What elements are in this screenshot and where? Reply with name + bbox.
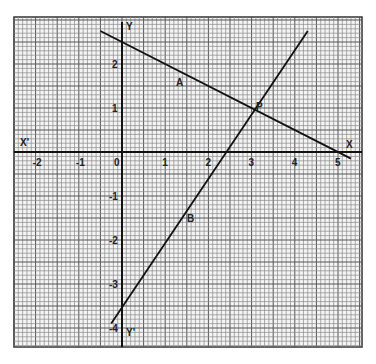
x-tick-label: 2	[205, 157, 211, 168]
axis-label-x-pos: X	[346, 139, 353, 150]
y-tick-label: -3	[109, 279, 118, 290]
x-tick-label: 5	[335, 157, 341, 168]
x-tick-label: 4	[292, 157, 298, 168]
y-tick-label: -1	[109, 191, 118, 202]
graph-paper-chart: X' X Y Y' A B P -2-101234521-1-2-3-4	[0, 0, 376, 364]
x-tick-label: 3	[249, 157, 255, 168]
y-tick-label: 2	[112, 59, 118, 70]
line-label-a: A	[176, 77, 183, 88]
axis-label-x-neg: X'	[20, 137, 29, 148]
axis-label-y-pos: Y	[126, 21, 133, 32]
grid	[14, 17, 362, 347]
x-tick-label: -2	[33, 157, 42, 168]
x-tick-label: -1	[76, 157, 85, 168]
y-tick-label: 1	[112, 103, 118, 114]
y-tick-label: -2	[109, 235, 118, 246]
line-label-b: B	[187, 213, 194, 224]
y-tick-label: -4	[109, 323, 118, 334]
x-tick-label: 1	[162, 157, 168, 168]
x-tick-label: 0	[114, 157, 120, 168]
point-label-p: P	[256, 101, 263, 112]
axis-label-y-neg: Y'	[126, 327, 135, 338]
